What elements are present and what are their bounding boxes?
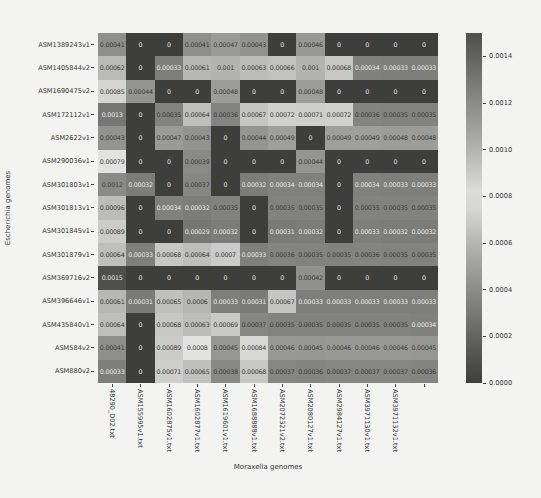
- y-tick-label: ASM301879v1: [0, 243, 96, 266]
- heatmap-cell: 0.00034: [155, 196, 183, 219]
- x-tick: ASM1602877v1.txt: [183, 384, 211, 464]
- colorbar-tick-label: 0.0002: [483, 332, 512, 340]
- heatmap-cell: 0.00033: [381, 290, 409, 313]
- x-tick: ASM3971132v1.txt: [381, 384, 409, 464]
- heatmap-cell: 0: [410, 266, 438, 289]
- heatmap-cell: 0.00036: [268, 243, 296, 266]
- heatmap-cell: 0.00038: [211, 360, 239, 383]
- heatmap-cell: 0.001: [211, 56, 239, 79]
- heatmap-cell: 0.00072: [325, 103, 353, 126]
- y-tick-label: ASM369716v2: [0, 266, 96, 289]
- heatmap-cell: 0.00035: [268, 196, 296, 219]
- y-tick-label: ASM435840v1: [0, 313, 96, 336]
- x-tick: ASM3971130v1.txt: [353, 384, 381, 464]
- heatmap-cell: 0: [155, 33, 183, 56]
- heatmap-cell: 0.00036: [211, 103, 239, 126]
- heatmap-cell: 0.00047: [211, 33, 239, 56]
- heatmap-cell: 0.00033: [410, 173, 438, 196]
- heatmap-cell: 0.0012: [98, 173, 126, 196]
- heatmap-cell: 0.00032: [126, 173, 154, 196]
- y-tick-label: ASM301845v1: [0, 220, 96, 243]
- heatmap-cell: 0: [325, 33, 353, 56]
- heatmap-cell: 0.00096: [98, 196, 126, 219]
- heatmap-cell: 0.00068: [240, 360, 268, 383]
- heatmap-cell: 0.00035: [410, 243, 438, 266]
- heatmap-cell: 0: [268, 266, 296, 289]
- x-tick-label: ASM3971132v1.txt: [391, 389, 399, 452]
- heatmap-grid: 0.00041000.000410.000470.0004300.0004600…: [98, 33, 438, 383]
- heatmap-cell: 0: [211, 173, 239, 196]
- heatmap-cell: 0.00035: [381, 196, 409, 219]
- x-tick-label: ASM2080127v1.txt: [306, 389, 314, 452]
- heatmap-cell: 0.00046: [296, 33, 324, 56]
- y-axis-labels: ASM1389243v1ASM1405844v2ASM1690475v2ASM1…: [0, 33, 96, 383]
- heatmap-cell: 0.00035: [325, 313, 353, 336]
- heatmap-cell: 0.00034: [268, 173, 296, 196]
- heatmap-cell: 0.00037: [381, 360, 409, 383]
- heatmap-cell: 0.00043: [98, 126, 126, 149]
- heatmap-cell: 0.0007: [211, 243, 239, 266]
- heatmap-cell: 0.00043: [240, 33, 268, 56]
- heatmap-cell: 0.00035: [410, 196, 438, 219]
- heatmap-cell: 0.00033: [240, 243, 268, 266]
- y-tick-label: ASM290036v1: [0, 150, 96, 173]
- y-tick-label: ASM880v2: [0, 360, 96, 383]
- heatmap-cell: 0.00033: [410, 290, 438, 313]
- heatmap-cell: 0: [240, 80, 268, 103]
- heatmap-cell: 0.00033: [98, 360, 126, 383]
- heatmap-cell: 0.00064: [98, 313, 126, 336]
- heatmap-cell: 0.00045: [211, 336, 239, 359]
- heatmap-cell: 0.00069: [211, 313, 239, 336]
- heatmap-cell: 0.00032: [296, 220, 324, 243]
- heatmap-cell: 0.00044: [126, 80, 154, 103]
- heatmap-cell: 0: [381, 266, 409, 289]
- heatmap-cell: 0.00034: [410, 313, 438, 336]
- heatmap-cell: 0.00045: [410, 336, 438, 359]
- heatmap-cell: 0: [183, 80, 211, 103]
- colorbar-tick-label: 0.0008: [483, 192, 512, 200]
- heatmap-cell: 0.00035: [381, 313, 409, 336]
- heatmap-cell: 0.00035: [381, 103, 409, 126]
- heatmap-cell: 0: [325, 150, 353, 173]
- heatmap-cell: 0: [410, 80, 438, 103]
- heatmap-cell: 0.00037: [268, 360, 296, 383]
- y-tick-label: ASM396646v1: [0, 290, 96, 313]
- heatmap-cell: 0: [126, 360, 154, 383]
- heatmap-chart: Escherichia genomes ASM1389243v1ASM14058…: [0, 0, 541, 498]
- heatmap-cell: 0.00035: [353, 196, 381, 219]
- y-tick-label: ASM584v2: [0, 336, 96, 359]
- colorbar-ticks: 0.00140.00120.00100.00080.00060.00040.00…: [483, 33, 541, 383]
- heatmap-cell: 0.00048: [296, 80, 324, 103]
- heatmap-cell: 0: [296, 126, 324, 149]
- heatmap-cell: 0.00031: [268, 220, 296, 243]
- heatmap-cell: 0.00044: [240, 126, 268, 149]
- heatmap-cell: 0.00046: [381, 336, 409, 359]
- heatmap-cell: 0: [126, 150, 154, 173]
- heatmap-cell: 0.00029: [183, 220, 211, 243]
- heatmap-cell: 0.00033: [410, 56, 438, 79]
- y-tick-label: ASM301813v1: [0, 196, 96, 219]
- heatmap-cell: 0.00048: [211, 80, 239, 103]
- heatmap-cell: 0: [240, 196, 268, 219]
- heatmap-cell: 0: [183, 266, 211, 289]
- heatmap-cell: 0.00035: [325, 243, 353, 266]
- heatmap-cell: 0.00031: [126, 290, 154, 313]
- colorbar-tick-label: 0.0000: [483, 379, 512, 387]
- heatmap-cell: 0.00037: [183, 173, 211, 196]
- heatmap-cell: 0.00037: [325, 360, 353, 383]
- heatmap-cell: 0.00089: [98, 220, 126, 243]
- heatmap-cell: 0.00041: [98, 336, 126, 359]
- colorbar-tick-label: 0.0006: [483, 239, 512, 247]
- heatmap-cell: 0: [325, 266, 353, 289]
- colorbar-tick-label: 0.0004: [483, 286, 512, 294]
- heatmap-cell: 0: [155, 173, 183, 196]
- heatmap-cell: 0.00036: [296, 360, 324, 383]
- heatmap-cell: 0.00035: [296, 313, 324, 336]
- heatmap-cell: 0.00061: [183, 56, 211, 79]
- heatmap-cell: 0.00033: [325, 290, 353, 313]
- heatmap-cell: 0: [126, 336, 154, 359]
- heatmap-cell: 0.00035: [353, 313, 381, 336]
- x-tick: ASM1602875v1.txt: [155, 384, 183, 464]
- x-axis-labels: 48290_D02.txtASM155995v1.txtASM1602875v1…: [98, 384, 438, 464]
- heatmap-cell: 0.00035: [381, 243, 409, 266]
